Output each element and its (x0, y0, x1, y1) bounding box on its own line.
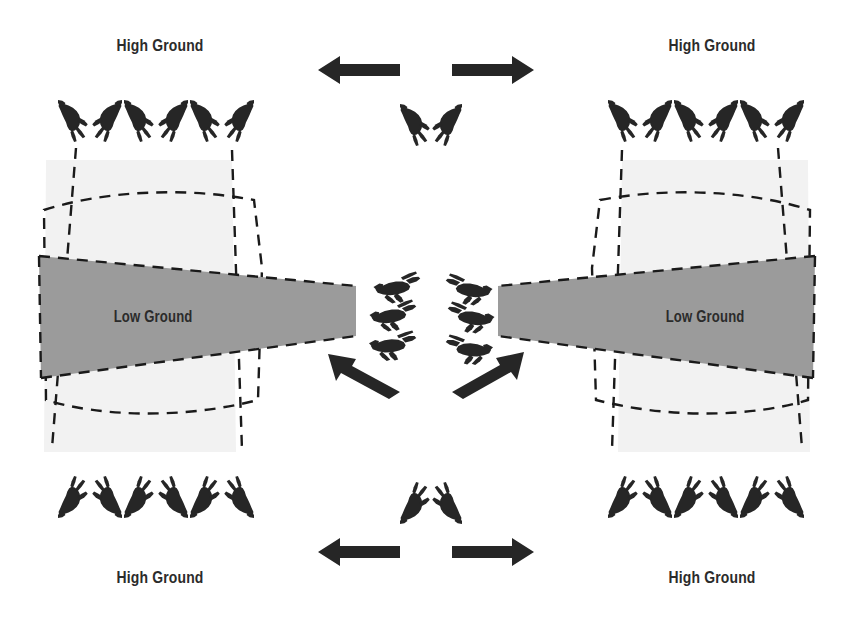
label-high-ground-top-left: High Ground (90, 34, 230, 58)
label-low-ground-left: Low Ground (86, 306, 220, 328)
figure-group-center-bottom (400, 482, 462, 524)
arrow-bottom-right (452, 538, 534, 566)
arrow-mid-left (328, 354, 400, 399)
figure-group-bottom-left (58, 476, 254, 518)
diagram-canvas: High Ground High Ground High Ground High… (0, 0, 854, 618)
label-text: High Ground (117, 36, 204, 56)
figure-group-top-right (608, 100, 804, 142)
arrow-bottom-left (318, 538, 400, 566)
figure-group-center-right (442, 273, 496, 368)
figure-group-center-top (400, 104, 462, 146)
label-text: High Ground (669, 568, 756, 588)
figure-group-bottom-right (608, 476, 804, 518)
left-terrain-group (39, 148, 356, 452)
arrow-top-right (452, 56, 534, 84)
arrow-top-left (318, 56, 400, 84)
label-text: High Ground (669, 36, 756, 56)
figure-group-center-left (368, 271, 424, 364)
right-terrain-group (498, 148, 815, 452)
label-text: Low Ground (666, 308, 745, 326)
label-text: Low Ground (114, 308, 193, 326)
arrow-mid-right (452, 352, 524, 399)
label-text: High Ground (117, 568, 204, 588)
label-high-ground-top-right: High Ground (642, 34, 782, 58)
label-high-ground-bottom-left: High Ground (90, 566, 230, 590)
figure-group-top-left (58, 100, 254, 142)
label-high-ground-bottom-right: High Ground (642, 566, 782, 590)
label-low-ground-right: Low Ground (638, 306, 772, 328)
